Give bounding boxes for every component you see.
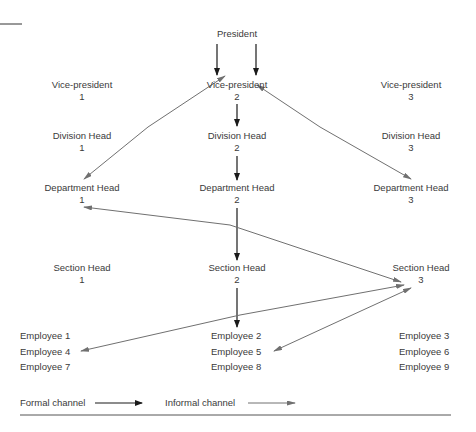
- node-department-1: Department Head1: [45, 182, 120, 206]
- employee-1: Employee 1: [20, 328, 70, 344]
- employee-6: Employee 6: [399, 344, 449, 360]
- employee-4: Employee 4: [20, 344, 70, 360]
- node-vp-3: Vice-president3: [381, 79, 442, 103]
- node-section-2: Section Head2: [208, 262, 265, 286]
- node-section-3: Section Head3: [392, 262, 449, 286]
- employees-col-3: Employee 3 Employee 6 Employee 9: [399, 328, 449, 375]
- node-vp-2: Vice-president2: [207, 79, 268, 103]
- node-vp-1: Vice-president1: [52, 79, 113, 103]
- node-department-3: Department Head3: [374, 182, 449, 206]
- node-division-1: Division Head1: [53, 130, 112, 154]
- node-division-2: Division Head2: [208, 130, 267, 154]
- employees-col-2: Employee 2 Employee 5 Employee 8: [211, 328, 261, 375]
- employee-8: Employee 8: [211, 359, 261, 375]
- employee-2: Employee 2: [211, 328, 261, 344]
- legend-informal-label: Informal channel: [165, 397, 235, 408]
- employee-3: Employee 3: [399, 328, 449, 344]
- node-division-3: Division Head3: [382, 130, 441, 154]
- employee-7: Employee 7: [20, 359, 70, 375]
- node-president: President: [217, 28, 257, 40]
- employees-col-1: Employee 1 Employee 4 Employee 7: [20, 328, 70, 375]
- informal-arrows: [81, 76, 411, 351]
- node-section-1: Section Head1: [53, 262, 110, 286]
- employee-9: Employee 9: [399, 359, 449, 375]
- employee-5: Employee 5: [211, 344, 261, 360]
- node-department-2: Department Head2: [200, 182, 275, 206]
- legend-formal-label: Formal channel: [20, 397, 85, 408]
